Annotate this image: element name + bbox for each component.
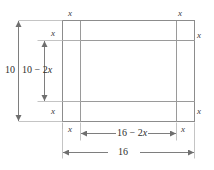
- label-lower-left-inner-x: x: [51, 107, 55, 116]
- dimension-label-outer-height: 10: [5, 65, 15, 75]
- diagram-svg: [0, 0, 214, 170]
- label-top-left-x: x: [68, 9, 72, 18]
- label-bottom-left-x: x: [68, 125, 72, 134]
- inner-width-var: x: [143, 127, 147, 138]
- label-upper-right-inner-x: x: [197, 31, 201, 40]
- dimension-label-inner-width: 16 − 2x: [117, 128, 147, 138]
- label-bottom-right-x: x: [181, 125, 185, 134]
- inner-width-base: 16 − 2: [117, 127, 143, 138]
- label-top-right-x: x: [178, 9, 182, 18]
- dimension-label-inner-height: 10 − 2x: [22, 65, 52, 75]
- label-lower-right-inner-x: x: [197, 107, 201, 116]
- dimension-label-outer-width: 16: [118, 147, 128, 157]
- outer-rectangle: [63, 21, 195, 122]
- inner-height-base: 10 − 2: [22, 64, 48, 75]
- label-upper-left-inner-x: x: [51, 29, 55, 38]
- figure-container: x x x x x x x x 10 10 − 2x 16 − 2x 16: [0, 0, 214, 170]
- inner-grid-lines: [63, 21, 195, 122]
- inner-height-var: x: [48, 64, 52, 75]
